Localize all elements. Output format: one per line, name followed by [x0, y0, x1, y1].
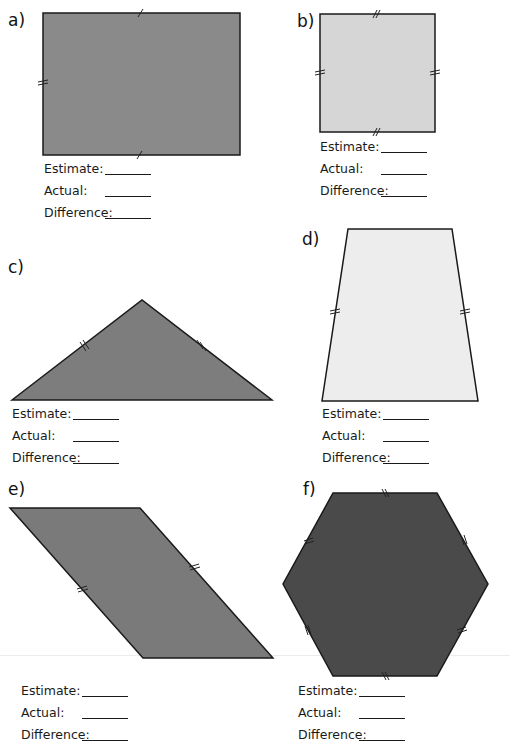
estimate-answer-line[interactable] [105, 174, 151, 175]
difference-label: Difference: [298, 727, 367, 741]
estimate-label: Estimate: [12, 406, 71, 422]
actual-label: Actual: [44, 183, 87, 199]
difference-label: Difference: [44, 205, 113, 221]
estimate-answer-line[interactable] [383, 419, 429, 420]
shapes-canvas [0, 0, 510, 741]
actual-label: Actual: [298, 705, 341, 721]
shape-f-hexagon [283, 489, 488, 680]
difference-answer-line[interactable] [381, 196, 427, 197]
shape-a-rectangle [38, 9, 240, 159]
actual-answer-line[interactable] [383, 441, 429, 442]
actual-answer-line[interactable] [381, 174, 427, 175]
estimate-answer-line[interactable] [381, 152, 427, 153]
shape-b-square [315, 10, 440, 136]
question-label-a: a) [8, 12, 25, 29]
question-label-d: d) [302, 231, 319, 248]
answer-block-e: Estimate: Actual: Difference: [21, 683, 131, 741]
actual-label: Actual: [322, 428, 365, 444]
estimate-answer-line[interactable] [359, 696, 405, 697]
difference-answer-line[interactable] [105, 218, 151, 219]
question-label-c: c) [8, 259, 24, 276]
estimate-answer-line[interactable] [73, 419, 119, 420]
estimate-answer-line[interactable] [82, 696, 128, 697]
estimate-label: Estimate: [44, 161, 103, 177]
actual-label: Actual: [12, 428, 55, 444]
answer-block-f: Estimate: Actual: Difference: [298, 683, 408, 741]
answer-block-c: Estimate: Actual: Difference: [12, 406, 122, 472]
actual-label: Actual: [320, 161, 363, 177]
shape-c-triangle [12, 300, 272, 400]
difference-answer-line[interactable] [383, 463, 429, 464]
answer-block-a: Estimate: Actual: Difference: [44, 161, 154, 227]
actual-answer-line[interactable] [82, 718, 128, 719]
question-label-f: f) [303, 481, 316, 498]
answer-block-d: Estimate: Actual: Difference: [322, 406, 432, 472]
difference-answer-line[interactable] [73, 463, 119, 464]
question-label-e: e) [8, 481, 25, 498]
question-label-b: b) [297, 13, 314, 30]
shape-e-parallelogram [10, 508, 273, 658]
difference-label: Difference: [320, 183, 389, 199]
actual-answer-line[interactable] [359, 718, 405, 719]
estimate-label: Estimate: [320, 139, 379, 155]
difference-label: Difference: [12, 450, 81, 466]
actual-answer-line[interactable] [105, 196, 151, 197]
difference-label: Difference: [322, 450, 391, 466]
shape-d-trapezium [322, 229, 478, 401]
estimate-label: Estimate: [21, 683, 80, 699]
actual-label: Actual: [21, 705, 64, 721]
estimate-label: Estimate: [322, 406, 381, 422]
answer-block-b: Estimate: Actual: Difference: [320, 139, 430, 205]
difference-label: Difference: [21, 727, 90, 741]
estimate-label: Estimate: [298, 683, 357, 699]
actual-answer-line[interactable] [73, 441, 119, 442]
